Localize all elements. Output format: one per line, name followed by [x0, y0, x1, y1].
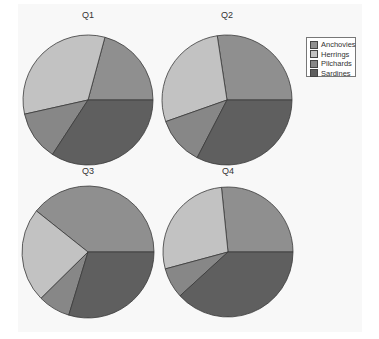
legend-label: Herrings [321, 50, 349, 59]
pie-title: Q4 [222, 166, 234, 176]
pie-q3: Q3 [22, 166, 154, 318]
pie-title: Q1 [82, 10, 94, 20]
legend-swatch-icon [310, 69, 318, 77]
pie-q2: Q2 [162, 10, 292, 165]
legend-label: Pilchards [321, 59, 352, 68]
slice-anchovies [217, 35, 292, 100]
legend-item-sardines: Sardines [310, 69, 355, 79]
legend-swatch-icon [310, 60, 318, 68]
legend-label: Anchovies [321, 40, 356, 49]
pie-title: Q3 [82, 166, 94, 176]
legend-label: Sardines [321, 69, 351, 78]
legend-swatch-icon [310, 41, 318, 49]
legend-swatch-icon [310, 50, 318, 58]
legend-item-herrings: Herrings [310, 50, 355, 60]
pie-title: Q2 [221, 10, 233, 20]
pie-q4: Q4 [163, 166, 293, 317]
legend-item-pilchards: Pilchards [310, 59, 355, 69]
slice-anchovies [221, 187, 293, 252]
legend-item-anchovies: Anchovies [310, 40, 355, 50]
legend: Anchovies Herrings Pilchards Sardines [306, 37, 356, 77]
pie-q1: Q1 [23, 10, 153, 165]
